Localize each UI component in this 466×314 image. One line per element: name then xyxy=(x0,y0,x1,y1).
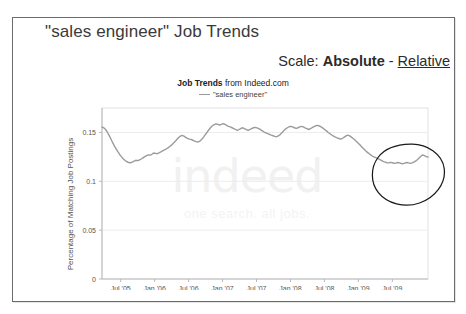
scale-separator: - xyxy=(389,53,394,69)
job-trends-chart: Percentage of Matching Job Postings 00.0… xyxy=(62,104,434,290)
legend-series-label: "sales engineer" xyxy=(213,90,267,99)
x-tick-label: Jul '07 xyxy=(247,285,267,290)
x-tick-label: Jul '08 xyxy=(314,285,334,290)
y-tick-label: 0.1 xyxy=(86,178,96,185)
x-tick-label: Jan '09 xyxy=(347,285,369,290)
y-tick-label: 0.05 xyxy=(82,227,96,234)
y-tick-label: 0 xyxy=(92,276,96,283)
legend-line-swatch xyxy=(199,94,210,95)
chart-svg: Percentage of Matching Job Postings 00.0… xyxy=(62,104,434,290)
x-tick-label: Jan '07 xyxy=(211,285,233,290)
x-tick-label: Jul '05 xyxy=(111,285,131,290)
scale-option-absolute[interactable]: Absolute xyxy=(323,53,385,69)
plot-frame xyxy=(102,108,428,279)
chart-source-header: Job Trends from Indeed.com xyxy=(0,78,466,88)
scale-control: Scale: Absolute - Relative xyxy=(278,53,450,69)
y-axis-ticks: 00.050.10.15 xyxy=(82,129,102,283)
y-axis-title: Percentage of Matching Job Postings xyxy=(66,138,75,271)
y-tick-label: 0.15 xyxy=(82,129,96,136)
x-axis-ticks: Jul '05Jan '06Jul '06Jan '07Jul '07Jan '… xyxy=(111,279,403,290)
chart-source-label: from Indeed.com xyxy=(223,78,289,88)
x-tick-label: Jan '06 xyxy=(143,285,165,290)
x-tick-label: Jul '06 xyxy=(179,285,199,290)
grid-lines xyxy=(102,132,428,230)
job-trends-label: Job Trends xyxy=(177,78,222,88)
chart-legend: "sales engineer" xyxy=(0,90,466,99)
x-tick-label: Jul '09 xyxy=(382,285,402,290)
scale-option-relative[interactable]: Relative xyxy=(398,53,450,69)
x-tick-label: Jan '08 xyxy=(279,285,301,290)
scale-label: Scale: xyxy=(278,53,318,69)
page-title: "sales engineer" Job Trends xyxy=(45,22,259,42)
series-line-sales-engineer xyxy=(102,124,428,164)
